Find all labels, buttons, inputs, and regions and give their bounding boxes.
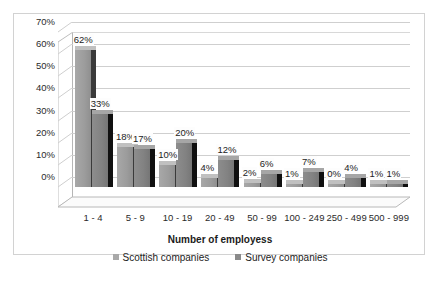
bar-front-face <box>117 147 133 187</box>
bar[interactable] <box>92 114 108 187</box>
bar-top-face <box>75 46 96 50</box>
bar[interactable] <box>261 174 277 187</box>
gridline <box>72 22 410 23</box>
bar-front-face <box>218 160 234 187</box>
bar[interactable] <box>345 178 361 187</box>
bar-data-label: 0% <box>326 168 342 179</box>
gridline <box>72 44 410 45</box>
y-axis-tick-label: 30% <box>36 106 55 116</box>
bar-front-face <box>345 178 361 187</box>
plot-floor <box>58 187 410 208</box>
bar-side-face <box>108 114 113 187</box>
x-axis-tick-label: 500 - 999 <box>359 212 419 223</box>
bar-data-label: 4% <box>343 162 359 173</box>
bar-top-face <box>387 180 408 184</box>
gridline-depth <box>58 66 73 78</box>
bar-front-face <box>261 174 277 187</box>
chart-legend: Scottish companiesSurvey companies <box>14 252 426 263</box>
bar[interactable] <box>370 184 386 187</box>
y-axis-tick-label: 20% <box>36 128 55 138</box>
bar-front-face <box>75 50 91 187</box>
bar-top-face <box>303 168 324 172</box>
bar-data-label: 17% <box>132 133 153 144</box>
bar-data-label: 10% <box>157 149 178 160</box>
gridline <box>72 88 410 89</box>
y-axis-tick-label: 50% <box>36 61 55 71</box>
bar-front-face <box>328 184 344 187</box>
gridline-depth <box>58 133 73 145</box>
bar-front-face <box>92 114 108 187</box>
gridline-depth <box>58 88 73 100</box>
bar-data-label: 1% <box>368 168 384 179</box>
bar-front-face <box>244 183 260 187</box>
bar-front-face <box>303 172 319 188</box>
bar[interactable] <box>286 184 302 187</box>
bar[interactable] <box>328 184 344 187</box>
bar[interactable] <box>244 183 260 187</box>
bar[interactable] <box>387 184 403 187</box>
y-axis-tick-label: 10% <box>36 150 55 160</box>
gridline-depth <box>58 155 73 167</box>
bar-front-face <box>159 165 175 187</box>
bar-front-face <box>370 184 386 187</box>
bar-data-label: 1% <box>284 168 300 179</box>
gridline-depth <box>58 177 73 189</box>
bar[interactable] <box>159 165 175 187</box>
plot-area: 62%33%18%17%10%20%4%12%2%6%1%7%0%4%1%1% <box>58 32 410 207</box>
y-axis-tick-label: 0% <box>41 172 55 182</box>
gridline-depth <box>58 111 73 123</box>
bar-data-label: 33% <box>90 98 111 109</box>
bar-side-face <box>361 178 366 187</box>
gridline <box>72 111 410 112</box>
bar-top-face <box>218 156 239 160</box>
bar-side-face <box>150 149 155 187</box>
bar-side-face <box>277 174 282 187</box>
y-axis-tick-label: 70% <box>36 17 55 27</box>
y-axis-tick-label: 40% <box>36 83 55 93</box>
bar-side-face <box>234 160 239 187</box>
gridline-depth <box>58 22 73 34</box>
bar-data-label: 62% <box>73 34 94 45</box>
legend-entry[interactable]: Survey companies <box>235 252 327 263</box>
bar-data-label: 1% <box>385 168 401 179</box>
bar-front-face <box>286 184 302 187</box>
x-axis: 1 - 45 - 910 - 1920 - 4950 - 99100 - 249… <box>58 212 418 226</box>
bar-top-face <box>92 110 113 114</box>
bar-data-label: 12% <box>216 144 237 155</box>
y-axis-tick-label: 60% <box>36 39 55 49</box>
bar-side-face <box>192 143 197 187</box>
bar-data-label: 20% <box>174 127 195 138</box>
bar-data-label: 6% <box>259 158 275 169</box>
legend-label: Scottish companies <box>123 252 210 263</box>
bar-top-face <box>345 174 366 178</box>
bar[interactable] <box>75 50 91 187</box>
bar-data-label: 2% <box>242 167 258 178</box>
gridline <box>72 66 410 67</box>
bar-top-face <box>134 145 155 149</box>
bar[interactable] <box>117 147 133 187</box>
bar-top-face <box>176 139 197 143</box>
legend-label: Survey companies <box>245 252 327 263</box>
legend-entry[interactable]: Scottish companies <box>113 252 210 263</box>
bar[interactable] <box>201 178 217 187</box>
legend-swatch-icon <box>235 254 241 260</box>
bar[interactable] <box>176 143 192 187</box>
chart-container: 70%60%50%40%30%20%10%0% 62%33%18%17%10%2… <box>13 13 425 255</box>
bar-data-label: 7% <box>301 156 317 167</box>
bar-front-face <box>176 143 192 187</box>
bar-data-label: 4% <box>199 162 215 173</box>
bar[interactable] <box>218 160 234 187</box>
bar-front-face <box>134 149 150 187</box>
gridline-depth <box>58 44 73 56</box>
bar[interactable] <box>303 172 319 188</box>
legend-swatch-icon <box>113 254 119 260</box>
x-axis-title: Number of employess <box>14 234 426 245</box>
bar-side-face <box>403 184 408 187</box>
bar[interactable] <box>134 149 150 187</box>
y-axis: 70%60%50%40%30%20%10%0% <box>22 32 55 207</box>
bar-side-face <box>319 172 324 188</box>
bar-front-face <box>387 184 403 187</box>
bar-front-face <box>201 178 217 187</box>
bar-top-face <box>261 170 282 174</box>
